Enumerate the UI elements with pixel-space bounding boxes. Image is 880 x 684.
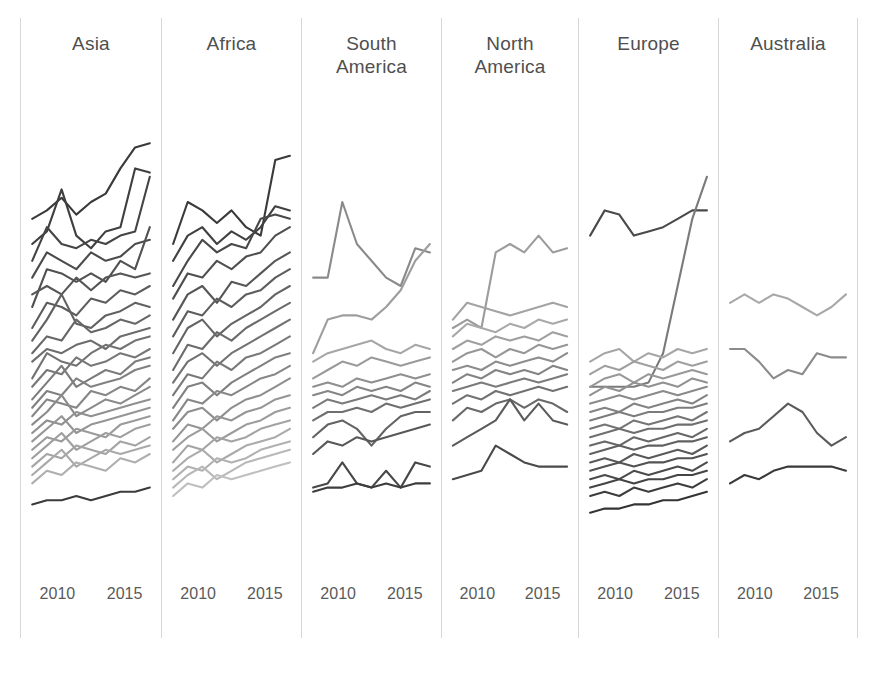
x-tick-label: 2010 [40, 584, 76, 604]
series-line [590, 362, 707, 375]
series-line [313, 399, 430, 420]
series-line [590, 387, 707, 404]
series-line [453, 374, 567, 391]
plot-area-africa [162, 118, 301, 538]
panel-asia: Asia20102015 [20, 18, 161, 638]
panel-title-asia: Asia [21, 32, 161, 55]
panel-south-america: South America20102015 [301, 18, 441, 638]
x-axis-ticks-europe: 20102015 [579, 584, 718, 604]
x-tick-label: 2010 [180, 584, 216, 604]
series-line [32, 399, 150, 433]
series-line [590, 454, 707, 471]
series-line [32, 240, 150, 278]
series-line [313, 425, 430, 454]
series-line [453, 236, 567, 328]
series-line [313, 202, 430, 286]
footer-note [0, 668, 872, 684]
series-line [32, 286, 150, 328]
x-axis-ticks-asia: 20102015 [21, 584, 161, 604]
x-tick-label: 2015 [247, 584, 283, 604]
series-line [32, 357, 150, 399]
plot-area-south-america [302, 118, 441, 538]
x-tick-label: 2015 [803, 584, 839, 604]
series-line [590, 492, 707, 513]
panel-australia: Australia20102015 [718, 18, 858, 638]
series-line [313, 357, 430, 378]
series-line [453, 399, 567, 445]
series-line [32, 488, 150, 505]
series-line [590, 420, 707, 437]
series-line [453, 332, 567, 349]
series-line [590, 349, 707, 362]
series-line [453, 345, 567, 362]
x-tick-label: 2015 [387, 584, 423, 604]
x-tick-label: 2015 [664, 584, 700, 604]
series-line [590, 404, 707, 421]
series-line [173, 286, 290, 353]
series-line [32, 315, 150, 353]
series-line [32, 273, 150, 294]
x-tick-label: 2010 [320, 584, 356, 604]
x-axis-ticks-north-america: 20102015 [442, 584, 578, 604]
x-tick-label: 2015 [525, 584, 561, 604]
panel-title-africa: Africa [162, 32, 301, 55]
faceted-line-chart: Asia20102015Africa20102015South America2… [0, 0, 880, 684]
series-line [453, 446, 567, 480]
series-line [730, 467, 846, 484]
panel-title-south-america: South America [302, 32, 441, 78]
series-line [590, 177, 707, 387]
plot-area-north-america [442, 118, 578, 538]
series-line [590, 437, 707, 454]
series-line [32, 366, 150, 408]
series-line [730, 349, 846, 378]
x-tick-label: 2010 [460, 584, 496, 604]
x-axis-ticks-africa: 20102015 [162, 584, 301, 604]
panel-north-america: North America20102015 [441, 18, 578, 638]
series-line [730, 294, 846, 315]
panel-title-australia: Australia [719, 32, 857, 55]
series-line [730, 404, 846, 446]
plot-area-asia [21, 118, 161, 538]
series-line [173, 320, 290, 383]
x-tick-label: 2010 [597, 584, 633, 604]
series-line [453, 303, 567, 320]
plot-area-europe [579, 118, 718, 538]
series-line [173, 252, 290, 319]
x-axis-ticks-australia: 20102015 [719, 584, 857, 604]
series-line [32, 408, 150, 442]
series-line [32, 425, 150, 459]
series-line [590, 471, 707, 488]
panel-title-north-america: North America [442, 32, 578, 78]
panel-title-europe: Europe [579, 32, 718, 55]
series-line [313, 483, 430, 491]
plot-area-australia [719, 118, 857, 538]
series-line [590, 370, 707, 387]
x-tick-label: 2015 [107, 584, 143, 604]
x-axis-ticks-south-america: 20102015 [302, 584, 441, 604]
x-tick-label: 2010 [737, 584, 773, 604]
panel-europe: Europe20102015 [578, 18, 718, 638]
panel-africa: Africa20102015 [161, 18, 301, 638]
series-line [173, 408, 290, 450]
